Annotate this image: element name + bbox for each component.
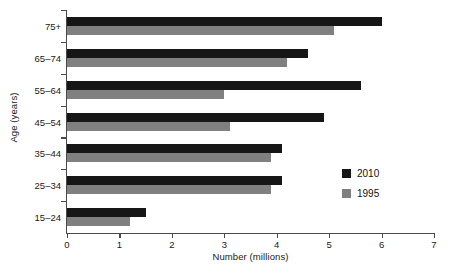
- legend-swatch-2010-icon: [342, 169, 351, 178]
- bar-1995-35–44: [67, 153, 271, 162]
- x-axis-tick-label: 4: [267, 239, 287, 250]
- bar-1995-55–64: [67, 90, 224, 99]
- legend-label-2010: 2010: [357, 168, 379, 179]
- bar-2010-35–44: [67, 144, 282, 153]
- bar-2010-75+: [67, 17, 382, 26]
- legend-label-1995: 1995: [357, 188, 379, 199]
- x-axis-tick-label: 3: [214, 239, 234, 250]
- y-axis-tick-label: 55–64: [5, 84, 61, 95]
- x-axis-tick: [277, 233, 278, 238]
- legend-item-1995[interactable]: 1995: [342, 183, 379, 203]
- x-axis-tick: [224, 233, 225, 238]
- bar-1995-45–54: [67, 122, 230, 131]
- y-axis-tick-label: 45–54: [5, 116, 61, 127]
- x-axis-tick-label: 2: [162, 239, 182, 250]
- y-axis-tick: [61, 201, 66, 202]
- x-axis-tick-label: 5: [319, 239, 339, 250]
- x-axis-tick: [172, 233, 173, 238]
- bar-1995-25–34: [67, 185, 271, 194]
- y-axis-tick: [61, 74, 66, 75]
- bar-2010-25–34: [67, 176, 282, 185]
- x-axis-tick: [119, 233, 120, 238]
- bar-1995-65–74: [67, 58, 287, 67]
- bar-2010-55–64: [67, 81, 361, 90]
- y-axis-tick-label: 65–74: [5, 52, 61, 63]
- y-axis-tick-label: 35–44: [5, 148, 61, 159]
- x-axis-tick: [434, 233, 435, 238]
- bar-chart: Age (years) Number (millions) 75+65–7455…: [0, 0, 449, 276]
- x-axis-tick-label: 0: [57, 239, 77, 250]
- legend-item-2010[interactable]: 2010: [342, 163, 379, 183]
- chart-legend: 2010 1995: [342, 163, 379, 203]
- x-axis-tick: [67, 233, 68, 238]
- x-axis-tick-label: 1: [109, 239, 129, 250]
- bar-2010-15–24: [67, 208, 146, 217]
- bar-1995-75+: [67, 26, 334, 35]
- y-axis-tick: [61, 42, 66, 43]
- y-axis-tick: [61, 10, 66, 11]
- x-axis-title: Number (millions): [67, 251, 434, 262]
- y-axis-tick-label: 75+: [5, 20, 61, 31]
- y-axis-tick: [61, 106, 66, 107]
- bar-1995-15–24: [67, 217, 130, 226]
- y-axis-tick-label: 25–34: [5, 180, 61, 191]
- x-axis-tick: [329, 233, 330, 238]
- y-axis-tick: [61, 137, 66, 138]
- bar-2010-45–54: [67, 113, 324, 122]
- legend-swatch-1995-icon: [342, 189, 351, 198]
- y-axis-tick: [61, 169, 66, 170]
- x-axis-tick-label: 7: [424, 239, 444, 250]
- bar-2010-65–74: [67, 49, 308, 58]
- y-axis-tick-label: 15–24: [5, 212, 61, 223]
- x-axis-tick: [382, 233, 383, 238]
- x-axis-tick-label: 6: [372, 239, 392, 250]
